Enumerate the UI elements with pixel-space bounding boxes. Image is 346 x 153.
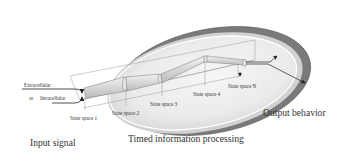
state-space-1-label: State space 1: [70, 115, 97, 121]
state-space-4-label: State space 4: [193, 91, 220, 97]
diagram-canvas: Extracellular or Intracellular State spa…: [0, 0, 346, 153]
intracellular-label: Intracellular: [40, 95, 66, 101]
input-signal-label: Input signal: [30, 137, 76, 148]
or-label: or: [29, 95, 34, 101]
timed-processing-label: Timed information processing: [128, 133, 244, 144]
state-space-3-label: State space 3: [150, 101, 177, 107]
output-behavior-label: Output behavior: [263, 107, 326, 118]
state-space-n-label: State space N: [228, 83, 256, 89]
extracellular-label: Extracellular: [24, 82, 51, 88]
state-space-2-label: State space 2: [112, 110, 139, 116]
